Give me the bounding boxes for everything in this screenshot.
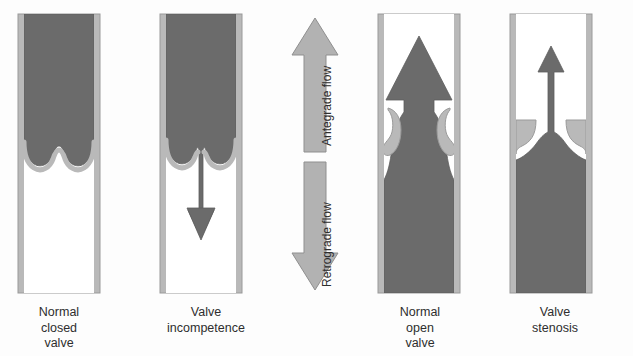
caption-valve-stenosis: Valve stenosis — [505, 305, 605, 336]
caption-normal-open-valve: Normal open valve — [368, 305, 472, 352]
panel-normal-open-valve — [378, 14, 460, 293]
panel-valve-incompetence — [160, 14, 242, 293]
panel-normal-closed-valve — [18, 14, 100, 293]
antegrade-flow-label: Antegrade flow — [320, 66, 334, 146]
blood-column — [24, 14, 94, 166]
caption-normal-closed-valve: Normal closed valve — [8, 305, 110, 352]
panel-valve-stenosis — [510, 14, 592, 293]
venous-valve-figure: Antegrade flow Retrograde flow Normal cl… — [0, 0, 633, 356]
valve-diagram-artwork — [0, 0, 633, 356]
retrograde-flow-label: Retrograde flow — [320, 202, 334, 287]
caption-valve-incompetence: Valve incompetence — [145, 305, 267, 336]
